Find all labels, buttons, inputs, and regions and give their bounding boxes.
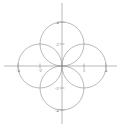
y-tick-label-neg2: -2 — [55, 86, 59, 91]
x-tick-label-pos2: 2 — [83, 68, 85, 73]
plot-figure: -4 -2 2 4 4 2 -2 -4 — [0, 0, 120, 127]
plot-canvas: -4 -2 2 4 4 2 -2 -4 — [0, 0, 120, 127]
y-tick-label-pos2: 2 — [56, 42, 58, 47]
x-tick-label-neg2: -2 — [38, 68, 42, 73]
